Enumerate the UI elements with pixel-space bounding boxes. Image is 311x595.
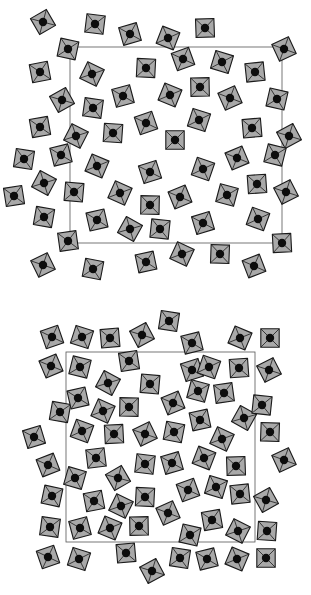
polyhedron-unit	[192, 212, 215, 235]
polyhedron-unit	[156, 26, 180, 50]
polyhedron-unit	[187, 108, 210, 131]
cation-atom	[166, 91, 174, 99]
cation-atom	[64, 45, 72, 53]
polyhedron-unit	[83, 98, 104, 119]
polyhedron-unit	[247, 174, 267, 194]
cation-atom	[89, 104, 97, 112]
polyhedron-unit	[264, 144, 286, 166]
polyhedron-unit	[32, 171, 57, 196]
cation-atom	[248, 124, 256, 132]
polyhedron-unit	[40, 517, 61, 538]
polyhedron-unit	[245, 62, 265, 82]
cation-atom	[39, 18, 47, 26]
polyhedron-unit	[211, 51, 234, 74]
cation-atom	[233, 154, 241, 162]
cation-atom	[48, 333, 56, 341]
polyhedron-unit	[69, 517, 92, 540]
cation-atom	[170, 428, 178, 436]
polyhedron-unit	[41, 485, 63, 507]
polyhedron-unit	[230, 484, 250, 504]
cation-atom	[89, 265, 97, 273]
cation-atom	[250, 262, 258, 270]
polyhedron-unit	[228, 326, 252, 350]
cation-atom	[278, 239, 286, 247]
cation-atom	[36, 68, 44, 76]
cation-atom	[75, 555, 83, 563]
polyhedron-unit	[179, 524, 201, 546]
polyhedron-unit	[116, 543, 136, 563]
polyhedron-unit	[191, 78, 210, 97]
polyhedron-unit	[103, 123, 123, 143]
polyhedron-unit	[201, 509, 222, 530]
polyhedron-unit	[266, 88, 288, 110]
cation-atom	[251, 68, 259, 76]
cation-atom	[164, 34, 172, 42]
polyhedron-unit	[192, 446, 216, 470]
polyhedron-unit	[105, 465, 130, 490]
polyhedron-unit	[135, 487, 154, 506]
cation-atom	[74, 394, 82, 402]
cation-atom	[93, 162, 101, 170]
cation-atom	[218, 58, 226, 66]
cation-atom	[78, 333, 86, 341]
polyhedron-unit	[210, 244, 229, 263]
polyhedron-unit	[108, 181, 132, 205]
polyhedron-unit	[189, 409, 211, 431]
polyhedron-unit	[216, 184, 239, 207]
cation-atom	[40, 179, 48, 187]
cation-atom	[266, 334, 274, 342]
polyhedron-unit	[225, 146, 249, 170]
cation-atom	[271, 151, 279, 159]
polyhedron-unit	[218, 86, 242, 110]
polyhedron-unit	[13, 148, 34, 169]
polyhedron-unit	[98, 516, 122, 540]
polyhedron-unit	[158, 83, 182, 107]
polyhedron-unit	[119, 23, 142, 46]
cation-atom	[273, 95, 281, 103]
polyhedron-unit	[226, 519, 251, 544]
cation-atom	[64, 237, 72, 245]
polyhedron-unit	[272, 448, 296, 472]
cation-atom	[165, 317, 173, 325]
cation-atom	[20, 155, 28, 163]
polyhedron-unit	[229, 358, 249, 378]
structure-diagram-bottom	[0, 295, 311, 595]
cation-atom	[10, 192, 18, 200]
cation-atom	[282, 188, 290, 196]
cation-atom	[116, 189, 124, 197]
cation-atom	[117, 502, 125, 510]
cation-atom	[114, 474, 122, 482]
cation-atom	[179, 55, 187, 63]
cation-atom	[196, 83, 204, 91]
polyhedron-unit	[36, 453, 60, 477]
cation-atom	[199, 219, 207, 227]
cation-atom	[266, 428, 274, 436]
cation-atom	[184, 486, 192, 494]
polyhedron-unit	[272, 37, 296, 61]
cation-atom	[47, 362, 55, 370]
polyhedron-unit	[31, 253, 56, 278]
polyhedron-unit	[29, 116, 50, 137]
cation-atom	[125, 403, 133, 411]
polyhedron-unit	[104, 424, 123, 443]
cation-atom	[262, 554, 270, 562]
polyhedron-unit	[40, 325, 63, 348]
polyhedron-unit	[36, 545, 59, 568]
cation-atom	[212, 483, 220, 491]
cation-atom	[148, 567, 156, 575]
cation-atom	[156, 225, 164, 233]
polyhedral-framework-top	[0, 0, 311, 290]
cation-atom	[146, 201, 154, 209]
cation-atom	[57, 151, 65, 159]
polyhedron-unit	[69, 356, 91, 378]
polyhedron-unit	[135, 454, 155, 474]
polyhedron-unit	[168, 185, 192, 209]
cation-atom	[78, 427, 86, 435]
cation-atom	[106, 524, 114, 532]
polyhedron-unit	[96, 371, 121, 396]
polyhedron-unit	[100, 328, 120, 348]
polyhedron-unit	[80, 62, 105, 87]
cation-atom	[56, 408, 64, 416]
polyhedron-unit	[161, 391, 185, 415]
polyhedron-unit	[171, 47, 195, 71]
